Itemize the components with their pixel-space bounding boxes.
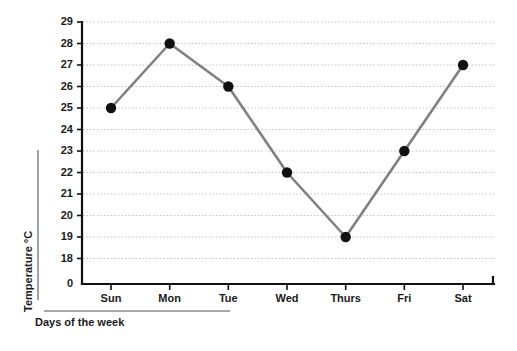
y-tick-label: 0 [67, 277, 73, 289]
x-tick-label: Sat [454, 292, 471, 304]
y-axis-title-group: Temperature °C [22, 150, 38, 312]
chart-canvas: 2928272625242322212019180 SunMonTueWedTh… [0, 0, 517, 351]
data-point-marker [340, 232, 350, 242]
data-point-marker [399, 146, 409, 156]
y-tick-label: 24 [61, 123, 74, 135]
line-chart: 2928272625242322212019180 SunMonTueWedTh… [0, 0, 517, 351]
data-point-marker [282, 167, 292, 177]
x-axis-title: Days of the week [35, 316, 125, 328]
x-axis-tick-labels: SunMonTueWedThursFriSat [101, 292, 472, 304]
axes [82, 22, 494, 284]
y-tick-label: 20 [61, 209, 73, 221]
y-axis-title: Temperature °C [22, 231, 34, 312]
x-tick-label: Tue [219, 292, 238, 304]
y-tick-label: 26 [61, 80, 73, 92]
y-tick-label: 25 [61, 101, 73, 113]
temperature-line [111, 44, 463, 238]
y-axis-tick-labels: 2928272625242322212019180 [61, 15, 74, 289]
y-tick-label: 19 [61, 230, 73, 242]
x-tick-label: Thurs [330, 292, 361, 304]
y-tick-label: 22 [61, 166, 73, 178]
y-tick-label: 29 [61, 15, 73, 27]
y-tick-label: 21 [61, 187, 73, 199]
data-point-marker [223, 81, 233, 91]
y-tick-label: 28 [61, 37, 73, 49]
x-axis-title-group: Days of the week [35, 311, 230, 328]
x-tick-label: Mon [158, 292, 181, 304]
data-markers [106, 38, 468, 242]
x-tick-label: Fri [397, 292, 411, 304]
y-tick-label: 18 [61, 252, 73, 264]
data-point-marker [458, 60, 468, 70]
x-tick-label: Wed [275, 292, 298, 304]
x-tick-label: Sun [101, 292, 122, 304]
data-point-marker [164, 38, 174, 48]
data-series [106, 38, 468, 242]
data-point-marker [106, 103, 116, 113]
gridlines [83, 22, 496, 259]
y-tick-label: 27 [61, 58, 73, 70]
y-tick-label: 23 [61, 144, 73, 156]
